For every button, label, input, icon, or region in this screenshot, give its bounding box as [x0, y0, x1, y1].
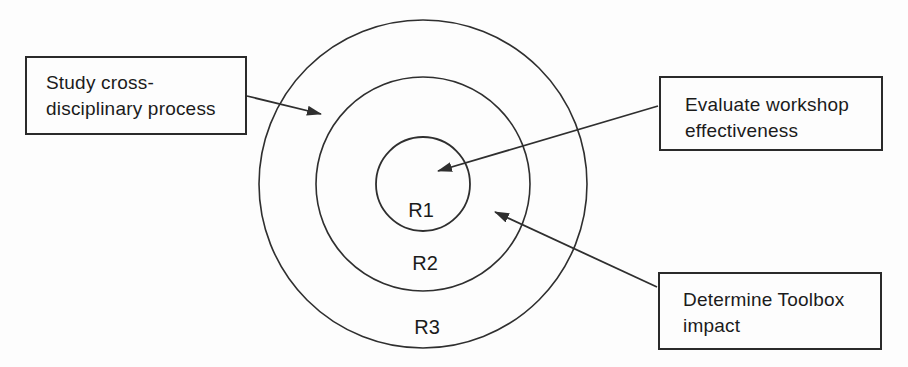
callout-text-line: Evaluate workshop — [685, 92, 873, 118]
ring-label-r2: R2 — [412, 252, 438, 274]
concentric-rings-diagram: R1 R2 R3 Study cross- disciplinary proce… — [0, 0, 908, 367]
callout-study-cross-disciplinary: Study cross- disciplinary process — [25, 56, 247, 135]
callout-determine-toolbox: Determine Toolbox impact — [658, 272, 882, 350]
outer-ring-circle — [259, 20, 587, 348]
workshop-effectiveness-arrow — [438, 106, 658, 171]
callout-text-line: Study cross- — [46, 70, 237, 96]
ring-label-r1: R1 — [408, 199, 434, 221]
ring-label-r3: R3 — [414, 316, 440, 338]
callout-text-line: Determine Toolbox — [683, 287, 872, 313]
study-process-arrow — [247, 96, 321, 114]
callout-text-line: effectiveness — [685, 118, 873, 144]
callout-text-line: impact — [683, 313, 872, 339]
callout-text-line: disciplinary process — [46, 96, 237, 122]
callout-evaluate-workshop: Evaluate workshop effectiveness — [659, 76, 883, 151]
toolbox-impact-arrow — [495, 212, 657, 287]
